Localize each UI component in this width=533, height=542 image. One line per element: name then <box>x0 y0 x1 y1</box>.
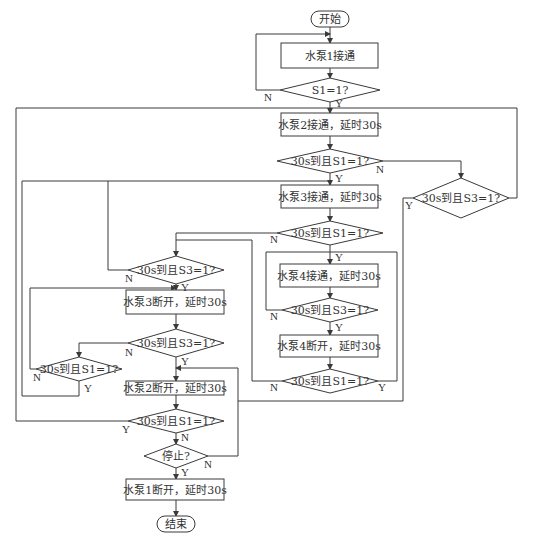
flowchart: 开始 水泵1接通 S1=1? 水泵2接通，延时30s 30s到且S1=1? 30… <box>0 0 533 542</box>
decision-left-s3-label: 30s到且S3=1? <box>137 264 215 277</box>
loop-left-s3-no <box>108 181 128 270</box>
decision-right-s3-label: 30s到且S3=1? <box>422 192 500 205</box>
decision-d5: 30s到且S1=1? <box>282 369 378 393</box>
process-pump3-on-label: 水泵3接通，延时30s <box>278 191 382 204</box>
decision-d7-label: 30s到且S1=1? <box>137 415 215 428</box>
label-d2-yes: Y <box>335 172 343 184</box>
process-pump2-on: 水泵2接通，延时30s <box>278 113 382 136</box>
decision-right-s3: 30s到且S3=1? <box>413 178 509 218</box>
label-right-s3-yes: Y <box>405 199 413 211</box>
decision-stop: 停止? <box>144 444 208 468</box>
process-pump4-off-label: 水泵4断开，延时30s <box>277 339 381 353</box>
process-pump4-on: 水泵4接通，延时30s <box>277 264 381 287</box>
decision-d7: 30s到且S1=1? <box>128 409 224 433</box>
process-pump2-off: 水泵2断开，延时30s <box>123 381 227 395</box>
process-pump1-off: 水泵1断开，延时30s <box>123 479 227 500</box>
label-d4-yes: Y <box>335 321 343 333</box>
process-pump1-on-label: 水泵1接通 <box>305 50 356 63</box>
label-small-s1-no: N <box>33 371 41 383</box>
label-left-s3-no: N <box>125 272 133 284</box>
decision-small-s1: 30s到且S1=1? <box>36 357 122 381</box>
process-pump2-off-label: 水泵2断开，延时30s <box>123 381 227 395</box>
decision-d2-label: 30s到且S1=1? <box>291 155 369 168</box>
label-d7-yes: Y <box>122 423 130 435</box>
terminal-start: 开始 <box>311 11 349 27</box>
arrow-d6-no-to-small-s1 <box>79 343 128 357</box>
decision-d6-s3: 30s到且S3=1? <box>128 329 224 357</box>
label-s1-yes: Y <box>335 97 343 109</box>
label-d3-yes: Y <box>335 251 343 263</box>
decision-s1: S1=1? <box>280 78 380 102</box>
decision-stop-label: 停止? <box>162 449 190 463</box>
terminal-start-label: 开始 <box>319 12 341 26</box>
terminal-end-label: 结束 <box>165 518 187 531</box>
process-pump3-on: 水泵3接通，延时30s <box>278 185 382 208</box>
process-pump4-on-label: 水泵4接通，延时30s <box>277 270 381 283</box>
arrow-d3-no-to-left-s3 <box>176 233 277 256</box>
decision-small-s1-label: 30s到且S1=1? <box>40 363 118 376</box>
decision-d2: 30s到且S1=1? <box>277 149 383 173</box>
terminal-end: 结束 <box>157 516 195 532</box>
process-pump3-off: 水泵3断开，延时30s <box>123 290 227 314</box>
decision-d6-s3-label: 30s到且S3=1? <box>137 337 215 350</box>
process-pump4-off: 水泵4断开，延时30s <box>277 335 381 357</box>
label-stop-no: N <box>204 458 212 470</box>
label-d6-yes: Y <box>181 355 189 367</box>
label-small-s1-yes: Y <box>84 382 92 394</box>
process-pump1-on: 水泵1接通 <box>281 43 378 68</box>
label-d7-no: N <box>181 431 189 443</box>
decision-left-s3: 30s到且S3=1? <box>128 256 224 284</box>
decision-d3: 30s到且S1=1? <box>277 221 383 245</box>
process-pump2-on-label: 水泵2接通，延时30s <box>278 119 382 132</box>
arrow-d2-no-to-right-s3 <box>383 161 461 178</box>
decision-s1-label: S1=1? <box>312 84 349 97</box>
label-stop-yes: Y <box>181 466 189 478</box>
label-d5-yes: Y <box>378 381 386 393</box>
decision-d4-s3-label: 30s到且S3=1? <box>291 304 369 317</box>
label-s1-no: N <box>264 91 272 103</box>
label-d6-no: N <box>125 346 133 358</box>
label-d5-no: N <box>270 381 278 393</box>
decision-d4-s3: 30s到且S3=1? <box>282 298 378 322</box>
process-pump1-off-label: 水泵1断开，延时30s <box>123 483 227 497</box>
process-pump3-off-label: 水泵3断开，延时30s <box>123 295 227 309</box>
decision-d3-label: 30s到且S1=1? <box>291 227 369 240</box>
label-left-s3-yes: Y <box>181 281 189 293</box>
label-d2-no: N <box>376 163 384 175</box>
decision-d5-label: 30s到且S1=1? <box>291 375 369 388</box>
label-d3-no: N <box>270 233 278 245</box>
label-d4-no: N <box>270 310 278 322</box>
